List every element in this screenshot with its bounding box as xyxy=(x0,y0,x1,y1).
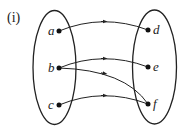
mapping-arrow-b-e xyxy=(59,59,148,69)
label-c: c xyxy=(48,97,54,112)
point-c xyxy=(57,103,62,108)
mapping-arrow-a-d xyxy=(59,22,148,32)
point-f xyxy=(146,102,151,107)
label-e: e xyxy=(153,59,159,74)
label-a: a xyxy=(48,23,55,38)
label-b: b xyxy=(48,60,55,75)
figure-caption: (i) xyxy=(7,10,21,26)
point-d xyxy=(146,28,151,33)
label-f: f xyxy=(153,96,159,111)
point-a xyxy=(57,29,62,34)
point-b xyxy=(57,66,62,71)
mapping-diagram: (i) a b c d e f xyxy=(0,0,183,133)
label-d: d xyxy=(153,22,160,37)
point-e xyxy=(146,65,151,70)
